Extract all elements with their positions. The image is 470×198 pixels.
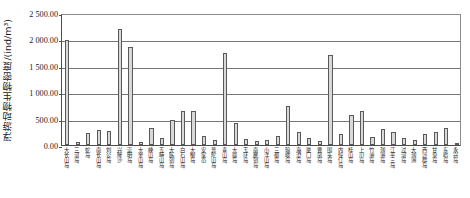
x-axis-category-label: 三河岛: [72, 147, 81, 162]
bar: [307, 138, 311, 145]
x-axis-category-label-text: 玉环岛: [243, 147, 248, 162]
x-axis-category-label-text: 江平三岛: [390, 147, 395, 167]
bar: [455, 143, 459, 145]
y-axis-tick-labels: 0.00500.001 000.001 500.002 000.002 500.…: [14, 14, 61, 146]
bar: [423, 134, 427, 145]
x-axis-category-label-text: 大长山岛: [64, 147, 69, 167]
plot-area: [61, 14, 461, 146]
x-axis-category-label: 围头岛: [325, 147, 334, 162]
bar: [118, 29, 122, 145]
bar: [444, 128, 448, 145]
bar: [160, 138, 164, 145]
bar: [181, 111, 185, 145]
x-axis-category-label-text: 蛇岛: [85, 147, 90, 157]
x-axis-category-label: 刘公岛: [104, 147, 113, 162]
bar: [107, 131, 111, 145]
bar: [202, 136, 206, 145]
x-axis-category-label-text: 南麂列岛: [253, 147, 258, 167]
x-axis-category-label: 大榭岛: [188, 147, 197, 162]
x-axis-category-label-text: 琅岐岛: [285, 147, 290, 162]
y-axis-tick-label: 0.00: [44, 142, 58, 151]
x-axis-category-label-text: 小洋山岛: [264, 147, 269, 167]
y-axis-title-text: 浮游动物生物密度/(ind/m³): [3, 19, 13, 141]
x-axis-category-label: 甘泉岛: [430, 147, 439, 162]
bar: [170, 120, 174, 145]
x-axis-category-label-text: 大鹿岛: [232, 147, 237, 162]
x-axis-category-label: 大鹿岛: [230, 147, 239, 162]
x-axis-category-label: 玉环岛: [241, 147, 250, 162]
x-axis-category-label-text: 东屿岛: [443, 147, 448, 162]
bar: [191, 111, 195, 145]
x-axis-category-label-text: 桂山岛: [348, 147, 353, 162]
x-axis-category-label: 竹洲岛: [367, 147, 376, 162]
x-axis-category-label-text: 甘泉岛: [432, 147, 437, 162]
bar: [86, 133, 90, 145]
x-axis-category-label-text: 竹洲岛: [369, 147, 374, 162]
bar: [434, 132, 438, 145]
x-axis-category-label-text: 青山岛: [221, 147, 226, 162]
x-axis-category-label: 崇明岛: [125, 147, 134, 162]
bar: [370, 137, 374, 145]
bar: [349, 115, 353, 145]
bar: [65, 40, 69, 145]
x-axis-category-label-text: 大金山岛: [137, 147, 142, 167]
y-axis-tick-label: 2 000.00: [29, 36, 58, 45]
x-axis-category-label: 小洋山岛: [262, 147, 271, 167]
x-axis-category-label-text: 崇明岛: [127, 147, 132, 162]
y-axis-tick-label: 2 500.00: [29, 10, 58, 19]
x-axis-category-label-text: 永兴岛: [453, 147, 458, 162]
x-axis-category-label-text: 五峙山岛: [158, 147, 163, 167]
bar: [318, 141, 322, 145]
x-axis-category-label-text: 大陈列岛: [169, 147, 174, 167]
bar: [97, 130, 101, 145]
x-axis-category-label-text: 上川岛: [358, 147, 363, 162]
bar: [223, 53, 227, 145]
x-axis-category-label: 安家岙: [199, 147, 208, 162]
x-axis-category-label-text: 围头岛: [327, 147, 332, 162]
x-axis-category-label-text: 三都岛: [274, 147, 279, 162]
x-axis-category-label: 过河岛: [399, 147, 408, 162]
x-axis-category-label: 青山岛: [220, 147, 229, 162]
y-axis-tick-label: 1 500.00: [29, 62, 58, 71]
bar: [276, 136, 280, 146]
x-axis-category-label-text: 大涠洲: [411, 147, 416, 162]
x-axis-category-label-text: 兴隆沙: [116, 147, 121, 162]
x-axis-category-label: 大金山岛: [135, 147, 144, 167]
bar: [286, 106, 290, 145]
bar: [402, 138, 406, 145]
bar: [328, 55, 332, 145]
y-axis-tick-label: 500.00: [35, 115, 58, 124]
x-axis-category-label-text: 海澄岛: [295, 147, 300, 162]
x-axis-category-label: 桂山岛: [346, 147, 355, 162]
bar: [234, 123, 238, 145]
bar: [391, 132, 395, 145]
x-axis-category-label: 涠洲岛: [378, 147, 387, 162]
bar: [265, 140, 269, 145]
bar: [297, 132, 301, 145]
x-axis-category-label: 南长山岛: [93, 147, 102, 167]
x-axis-category-label: 上川岛: [357, 147, 366, 162]
bar: [76, 142, 80, 145]
x-axis-category-label-text: 三河岛: [74, 147, 79, 162]
x-axis-category-label-text: 普陀山岛: [211, 147, 216, 167]
x-axis-category-label-text: 曹凤岛: [316, 147, 321, 162]
bar: [255, 141, 259, 145]
bar: [413, 140, 417, 145]
bar: [244, 139, 248, 145]
bar: [139, 142, 143, 145]
x-axis-category-label: 东屿岛: [441, 147, 450, 162]
x-axis-category-label-text: 嵊山岛: [148, 147, 153, 162]
x-axis-category-label: 西沙群岛: [420, 147, 429, 167]
x-axis-category-label-text: 大榭岛: [190, 147, 195, 162]
x-axis-category-label: 江平三岛: [388, 147, 397, 167]
bar: [360, 111, 364, 145]
x-axis-category-label-text: 安家岙: [200, 147, 205, 162]
x-axis-category-label: 兴隆沙: [114, 147, 123, 162]
x-axis-category-label: 永兴岛: [451, 147, 460, 162]
x-axis-category-label-text: 西沙群岛: [421, 147, 426, 167]
x-axis-category-label: 厦门岛: [304, 147, 313, 162]
x-axis-category-label: 大陈列岛: [167, 147, 176, 167]
x-axis-category-label-text: 内伶仃岛: [337, 147, 342, 167]
x-axis-category-label: 琅岐岛: [283, 147, 292, 162]
bar: [213, 140, 217, 145]
